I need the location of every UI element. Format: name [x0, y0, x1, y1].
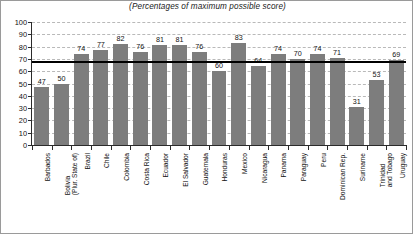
bar[interactable]	[93, 50, 108, 145]
bar[interactable]	[231, 43, 246, 145]
bar[interactable]	[54, 84, 69, 146]
bar-group[interactable]: 60	[209, 22, 229, 145]
bar-group[interactable]: 77	[91, 22, 111, 145]
x-axis-category-label: Ecuador	[162, 153, 169, 178]
bar-group[interactable]: 74	[308, 22, 328, 145]
y-axis-tick-label: 70	[3, 55, 27, 64]
bar[interactable]	[133, 52, 148, 145]
y-axis-tick-label: 50	[3, 80, 27, 89]
bar-group[interactable]: 50	[52, 22, 72, 145]
x-axis-category-label: Honduras	[221, 153, 228, 182]
bar-group[interactable]: 81	[170, 22, 190, 145]
bar[interactable]	[369, 80, 384, 145]
y-axis-tick-label: 20	[3, 116, 27, 125]
x-axis-category-label: Barbados	[44, 153, 51, 181]
bar-value-label: 81	[176, 35, 184, 44]
bar[interactable]	[113, 44, 128, 145]
x-axis-category-label: Brazil	[84, 153, 91, 170]
x-axis-category-label: El Salvador	[182, 153, 189, 187]
bar[interactable]	[330, 58, 345, 145]
bar[interactable]	[251, 66, 266, 145]
y-axis-tick-label: 30	[3, 104, 27, 113]
bar-value-label: 74	[77, 44, 85, 53]
x-axis-tick-mark	[130, 146, 131, 150]
bar-value-label: 71	[333, 48, 341, 57]
bar-value-label: 74	[274, 44, 282, 53]
x-axis-tick-mark	[288, 146, 289, 150]
bar[interactable]	[192, 52, 207, 145]
chart-figure: (Percentages of maximum possible score) …	[0, 0, 413, 234]
x-axis-tick-mark	[268, 146, 269, 150]
x-axis-category-label: Trinidadand Tobago	[379, 153, 394, 187]
x-axis-category-label: Guatemala	[202, 153, 209, 185]
bar-group[interactable]: 76	[130, 22, 150, 145]
x-axis-category-label: Colombia	[123, 153, 130, 181]
bar-group[interactable]: 71	[327, 22, 347, 145]
bar-group[interactable]: 70	[288, 22, 308, 145]
y-axis-tick-label: 100	[3, 18, 27, 27]
x-axis-tick-mark	[71, 146, 72, 150]
bar-value-label: 47	[38, 77, 46, 86]
bar[interactable]	[34, 87, 49, 145]
x-axis-category-label: Uruguay	[399, 153, 406, 178]
bar[interactable]	[271, 54, 286, 145]
x-axis-tick-mark	[229, 146, 230, 150]
bar-value-label: 76	[195, 42, 203, 51]
x-axis-tick-mark	[170, 146, 171, 150]
x-axis-line	[31, 145, 407, 146]
bar-value-label: 70	[294, 49, 302, 58]
bar-value-label: 50	[58, 74, 66, 83]
x-axis-tick-mark	[52, 146, 53, 150]
bar-group[interactable]: 64	[249, 22, 269, 145]
reference-line	[32, 61, 406, 63]
x-axis-category-label: Chile	[103, 153, 110, 168]
bar-group[interactable]: 76	[189, 22, 209, 145]
x-axis-category-label: Dominican Rep.	[339, 153, 346, 200]
x-axis-category-label: Mexico	[241, 153, 248, 174]
bar-value-label: 74	[313, 44, 321, 53]
x-axis-tick-mark	[347, 146, 348, 150]
y-axis-tick-label: 10	[3, 129, 27, 138]
x-axis-tick-mark	[91, 146, 92, 150]
bar[interactable]	[152, 45, 167, 145]
bar[interactable]	[389, 60, 404, 145]
bar-group[interactable]: 74	[71, 22, 91, 145]
y-axis-tick-label: 0	[3, 141, 27, 150]
bar-group[interactable]: 69	[386, 22, 406, 145]
y-axis-tick-labels: 0102030405060708090100	[1, 22, 27, 146]
x-axis-tick-mark	[209, 146, 210, 150]
x-axis-tick-mark	[249, 146, 250, 150]
bar[interactable]	[310, 54, 325, 145]
bar-group[interactable]: 53	[367, 22, 387, 145]
bar[interactable]	[212, 71, 227, 145]
x-axis-tick-mark	[150, 146, 151, 150]
bar-group[interactable]: 82	[111, 22, 131, 145]
bar-value-label: 83	[235, 33, 243, 42]
x-axis-category-label: Panama	[280, 153, 287, 178]
bar-value-label: 77	[97, 40, 105, 49]
bar-group[interactable]: 74	[268, 22, 288, 145]
x-axis-tick-mark	[367, 146, 368, 150]
bar[interactable]	[74, 54, 89, 145]
x-axis-category-label: Bolivia(Plur. State of)	[64, 153, 79, 195]
bar-group[interactable]: 83	[229, 22, 249, 145]
x-axis-category-label: Peru	[320, 153, 327, 167]
x-axis-category-label: Paraguay	[300, 153, 307, 181]
bar-value-label: 81	[156, 35, 164, 44]
bar-group[interactable]: 47	[32, 22, 52, 145]
x-axis-tick-mark	[327, 146, 328, 150]
bar-value-label: 53	[372, 70, 380, 79]
bars-layer: 47507477827681817660836474707471315369	[32, 22, 406, 145]
bar[interactable]	[349, 107, 364, 145]
x-axis-tick-mark	[406, 146, 407, 150]
bar-group[interactable]: 81	[150, 22, 170, 145]
bar-group[interactable]: 31	[347, 22, 367, 145]
x-axis-tick-mark	[32, 146, 33, 150]
chart-title: (Percentages of maximum possible score)	[1, 2, 413, 11]
bar[interactable]	[172, 45, 187, 145]
x-axis-labels-layer: BarbadosBolivia(Plur. State of)BrazilChi…	[32, 147, 406, 234]
y-axis-tick-label: 90	[3, 30, 27, 39]
x-axis-category-label: Costa Rica	[143, 153, 150, 185]
bar[interactable]	[290, 59, 305, 145]
bar-value-label: 69	[392, 50, 400, 59]
